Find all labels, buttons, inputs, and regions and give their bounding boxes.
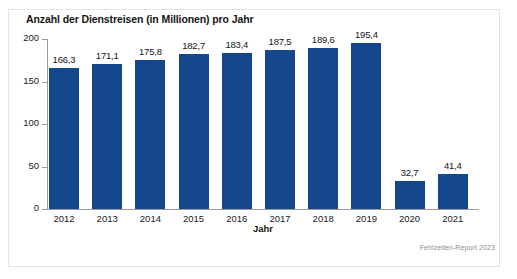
bar-value-label: 175,8 (139, 46, 162, 57)
bar (222, 53, 252, 209)
bar-value-label: 32,7 (401, 167, 419, 178)
y-axis-tick-label: 0 (34, 202, 39, 213)
chart-figure: Anzahl der Dienstreisen (in Millionen) p… (0, 0, 517, 279)
y-axis-tick-label: 200 (23, 32, 39, 43)
bar-value-label: 41,4 (444, 160, 462, 171)
bar (438, 174, 468, 209)
bar-group: 182,72015 (179, 39, 209, 209)
y-axis-tick-mark (42, 39, 47, 40)
bar (395, 181, 425, 209)
bar-group: 41,42021 (438, 39, 468, 209)
bar (308, 48, 338, 209)
bar (135, 60, 165, 209)
plot-area: 050100150200 166,32012171,12013175,82014… (47, 39, 479, 209)
y-axis-tick-mark (42, 82, 47, 83)
y-axis-tick-label: 100 (23, 117, 39, 128)
bar-value-label: 182,7 (182, 40, 205, 51)
x-axis-line (47, 209, 479, 210)
bar-value-label: 166,3 (53, 54, 76, 65)
bar-group: 189,62018 (308, 39, 338, 209)
y-axis-line (47, 39, 48, 209)
bar-value-label: 171,1 (96, 50, 119, 61)
bar-group: 166,32012 (49, 39, 79, 209)
y-axis-tick-mark (42, 167, 47, 168)
bar-group: 171,12013 (92, 39, 122, 209)
bar-group: 183,42016 (222, 39, 252, 209)
bar-value-label: 189,6 (312, 34, 335, 45)
bar-value-label: 195,4 (355, 29, 378, 40)
bar (92, 64, 122, 209)
bar (179, 54, 209, 209)
bar (49, 68, 79, 209)
x-axis-title: Jahr (47, 223, 479, 234)
bar-value-label: 187,5 (269, 36, 292, 47)
bar-group: 175,82014 (135, 39, 165, 209)
chart-title: Anzahl der Dienstreisen (in Millionen) p… (26, 13, 254, 25)
bar (351, 43, 381, 209)
bar-group: 32,72020 (395, 39, 425, 209)
bar-group: 187,52017 (265, 39, 295, 209)
y-axis-tick-label: 150 (23, 75, 39, 86)
bar (265, 50, 295, 209)
y-axis-tick-mark (42, 124, 47, 125)
y-axis-tick-mark (42, 209, 47, 210)
bar-value-label: 183,4 (225, 39, 248, 50)
y-axis-tick-label: 50 (28, 160, 39, 171)
bar-group: 195,42019 (351, 39, 381, 209)
source-note: Fehlzeiten-Report 2023 (420, 244, 495, 251)
